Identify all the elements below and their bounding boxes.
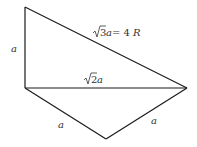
- label-middle: 2 a: [84, 73, 103, 85]
- label-hypotenuse: 3 a = 4 R: [93, 26, 141, 38]
- edge-lower-left: [25, 88, 106, 139]
- label-left-side: a: [11, 43, 17, 54]
- label-lower-left: a: [58, 119, 64, 130]
- edge-lower-right: [106, 88, 187, 139]
- svg-text:R: R: [132, 27, 141, 38]
- svg-text:= 4: = 4: [112, 27, 130, 38]
- edge-hypotenuse: [25, 7, 187, 88]
- label-lower-right: a: [151, 115, 157, 126]
- svg-text:a: a: [97, 74, 103, 85]
- geometry-diagram: a 3 a = 4 R 2 a a a: [0, 0, 197, 147]
